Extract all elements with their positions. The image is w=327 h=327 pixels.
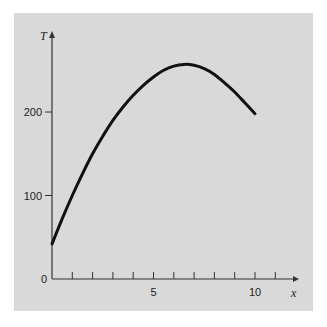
x-axis-label: x [290,286,297,300]
y-tick-label: 0 [41,273,47,285]
x-tick-label: 5 [150,286,156,298]
y-tick-label: 200 [24,106,42,118]
x-tick-label: 10 [249,286,261,298]
line-chart: 5100100200 T x [0,0,327,327]
y-axis-arrow-icon [49,31,55,38]
x-axis-arrow-icon [293,276,299,282]
y-axis-label: T [40,29,48,43]
y-tick-label: 100 [24,190,42,202]
data-line [52,64,255,244]
